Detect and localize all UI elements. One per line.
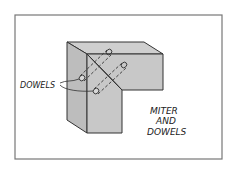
block-left-face	[67, 42, 87, 133]
miter-dowel-joint-diagram: DOWELS MITER AND DOWELS	[0, 0, 232, 169]
caption-line-1: MITER	[150, 106, 178, 116]
caption-line-2: AND	[155, 116, 176, 126]
dowels-callout-label: DOWELS	[20, 81, 55, 90]
caption-line-3: DOWELS	[147, 127, 187, 137]
l-shaped-block	[67, 42, 163, 133]
